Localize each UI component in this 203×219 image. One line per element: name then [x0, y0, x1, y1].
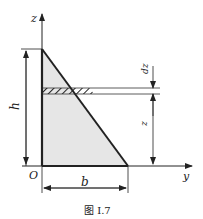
- height-dimension: [21, 49, 42, 166]
- strip-position-label: z: [139, 121, 149, 127]
- hatched-strip: [42, 88, 160, 94]
- figure-caption: 图 I.7: [84, 205, 111, 216]
- base-label: b: [81, 175, 89, 189]
- strip-thickness-label: dz: [140, 63, 150, 74]
- y-axis-label: y: [182, 170, 190, 183]
- origin-label: O: [29, 169, 38, 182]
- triangle-diagram: z y O h b dz z 图 I.7: [0, 0, 203, 219]
- z-axis-label: z: [30, 12, 37, 25]
- height-label: h: [8, 102, 22, 110]
